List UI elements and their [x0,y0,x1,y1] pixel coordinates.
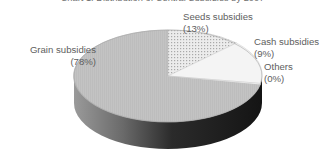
slice-label-grain-name: Grain subsidies [30,44,96,55]
slice-label-others-name: Others [264,61,293,72]
slice-label-seeds-name: Seeds subsidies [183,11,253,22]
slice-label-others: Others (0%) [264,61,293,84]
slice-label-cash-name: Cash subsidies [254,36,319,47]
slice-label-cash: Cash subsidies (9%) [254,36,319,59]
slice-label-others-percent: (0%) [264,73,293,85]
slice-label-seeds-percent: (13%) [183,23,253,35]
slice-label-cash-percent: (9%) [254,48,319,60]
slice-label-grain: Grain subsidies (78%) [4,44,96,67]
slice-label-seeds: Seeds subsidies (13%) [183,11,253,34]
slice-label-grain-percent: (78%) [4,56,96,68]
pie-chart-figure: Chart 1: Distribution of Central Subsidi… [0,0,325,164]
